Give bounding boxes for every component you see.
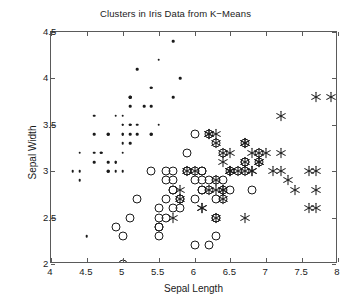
data-point-circle xyxy=(197,185,206,194)
data-point-dot xyxy=(93,151,96,154)
data-point-circle xyxy=(204,130,213,139)
x-axis-tick-top xyxy=(123,32,124,36)
data-point-asterisk xyxy=(311,91,322,102)
y-axis-tick xyxy=(51,171,55,172)
data-point-asterisk xyxy=(175,184,186,195)
data-point-dot xyxy=(121,151,124,154)
data-point-asterisk xyxy=(218,156,229,167)
data-point-dot xyxy=(150,86,153,89)
y-axis-tick-right xyxy=(332,78,336,79)
data-point-circle xyxy=(176,195,185,204)
data-point-asterisk xyxy=(225,147,236,158)
data-point-asterisk xyxy=(218,184,229,195)
data-point-dot xyxy=(93,161,96,164)
data-point-circle xyxy=(161,213,170,222)
x-axis-tick-top xyxy=(230,32,231,36)
data-point-circle xyxy=(161,195,170,204)
data-point-dot xyxy=(121,170,124,173)
data-point-asterisk xyxy=(246,147,257,158)
data-point-asterisk xyxy=(246,166,257,177)
data-point-asterisk xyxy=(254,147,265,158)
chart-title: Clusters in Iris Data from K−Means xyxy=(0,8,351,19)
data-point-circle xyxy=(183,148,192,157)
data-point-asterisk xyxy=(268,166,279,177)
data-point-dot xyxy=(107,161,110,164)
x-axis-tick-top xyxy=(87,32,88,36)
data-point-dot xyxy=(121,114,124,117)
data-point-asterisk xyxy=(203,129,214,140)
data-point-dot xyxy=(107,133,110,136)
data-point-circle xyxy=(226,185,235,194)
data-point-circle xyxy=(240,139,249,148)
data-point-asterisk xyxy=(261,147,272,158)
data-point-circle xyxy=(111,222,120,231)
x-axis-tick-label: 5.5 xyxy=(151,266,164,277)
data-point-circle xyxy=(204,185,213,194)
data-point-asterisk xyxy=(304,166,315,177)
x-axis-tick xyxy=(123,258,124,262)
data-point-dot xyxy=(129,124,132,127)
data-point-asterisk xyxy=(218,147,229,158)
data-point-circle xyxy=(197,167,206,176)
data-point-asterisk xyxy=(304,203,315,214)
data-point-circle xyxy=(176,204,185,213)
data-point-dot xyxy=(129,96,132,99)
data-point-circle xyxy=(212,213,221,222)
data-point-circle xyxy=(154,232,163,241)
data-point-dot xyxy=(179,77,182,80)
data-point-circle xyxy=(190,130,199,139)
data-point-dot xyxy=(114,161,117,164)
x-axis-tick-label: 7.5 xyxy=(295,266,308,277)
data-point-asterisk xyxy=(218,194,229,205)
data-point-circle xyxy=(161,176,170,185)
data-point-circle xyxy=(168,185,177,194)
data-point-asterisk xyxy=(311,203,322,214)
data-point-dot xyxy=(157,59,160,62)
data-point-dot xyxy=(143,105,146,108)
data-point-asterisk xyxy=(211,184,222,195)
data-point-dot xyxy=(78,179,81,182)
data-point-circle xyxy=(212,213,221,222)
data-point-asterisk xyxy=(225,166,236,177)
data-point-circle xyxy=(233,167,242,176)
x-axis-tick-label: 8 xyxy=(334,266,339,277)
data-point-circle xyxy=(240,157,249,166)
data-point-circle xyxy=(219,185,228,194)
data-point-dot xyxy=(150,133,153,136)
data-point-asterisk xyxy=(218,184,229,195)
data-point-circle xyxy=(204,176,213,185)
x-axis-tick-label: 4.5 xyxy=(79,266,92,277)
data-point-circle xyxy=(255,148,264,157)
iris-kmeans-scatter-figure: Clusters in Iris Data from K−Means 44.55… xyxy=(0,0,351,305)
x-axis-tick-top xyxy=(338,32,339,36)
x-axis-tick-label: 5 xyxy=(119,266,124,277)
data-point-dot xyxy=(129,142,132,145)
data-point-circle xyxy=(190,241,199,250)
data-point-dot xyxy=(71,170,74,173)
data-point-asterisk xyxy=(203,129,214,140)
data-point-circle xyxy=(154,222,163,231)
data-point-asterisk xyxy=(211,129,222,140)
data-point-dot xyxy=(78,170,81,173)
data-point-circle xyxy=(190,167,199,176)
data-point-circle xyxy=(240,157,249,166)
data-point-dot xyxy=(121,124,124,127)
data-point-asterisk xyxy=(175,194,186,205)
data-point-dot xyxy=(172,96,175,99)
data-point-asterisk xyxy=(196,203,207,214)
data-point-asterisk xyxy=(311,166,322,177)
data-point-circle xyxy=(154,204,163,213)
y-axis-tick-right xyxy=(332,264,336,265)
data-point-dot xyxy=(86,235,89,238)
data-point-dot xyxy=(136,124,139,127)
data-point-asterisk xyxy=(239,156,250,167)
data-point-asterisk xyxy=(189,166,200,177)
y-axis-label: Sepal Width xyxy=(27,93,38,213)
data-point-circle xyxy=(154,222,163,231)
x-axis-tick-top xyxy=(266,32,267,36)
data-point-circle xyxy=(168,185,177,194)
data-point-circle xyxy=(125,213,134,222)
data-point-asterisk xyxy=(239,138,250,149)
data-point-dot xyxy=(114,161,117,164)
data-point-dot xyxy=(114,114,117,117)
